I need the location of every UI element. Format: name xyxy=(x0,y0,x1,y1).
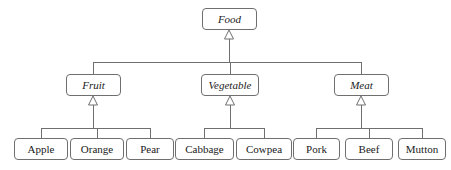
generalization-arrowhead-vegetable xyxy=(226,96,235,105)
class-node-label: Mutton xyxy=(406,144,438,155)
class-node-label: Fruit xyxy=(82,80,105,91)
class-node-fruit[interactable]: Fruit xyxy=(66,74,121,96)
class-node-orange[interactable]: Orange xyxy=(70,138,124,160)
class-node-label: Orange xyxy=(81,144,113,155)
class-node-label: Cabbage xyxy=(185,144,223,155)
class-node-label: Pear xyxy=(140,144,160,155)
generalization-arrowhead-food xyxy=(225,30,234,39)
class-node-label: Meat xyxy=(350,80,373,91)
class-node-food[interactable]: Food xyxy=(202,8,257,30)
class-node-label: Apple xyxy=(28,144,55,155)
class-node-apple[interactable]: Apple xyxy=(14,138,68,160)
class-node-meat[interactable]: Meat xyxy=(334,74,389,96)
class-node-mutton[interactable]: Mutton xyxy=(398,138,446,160)
uml-class-hierarchy-diagram: Food Fruit Vegetable Meat Apple Orange P… xyxy=(0,0,451,170)
class-node-label: Beef xyxy=(359,144,380,155)
class-node-vegetable[interactable]: Vegetable xyxy=(201,74,259,96)
class-node-beef[interactable]: Beef xyxy=(345,138,393,160)
generalization-arrowhead-fruit xyxy=(89,96,98,105)
class-node-label: Food xyxy=(218,14,241,25)
generalization-arrowhead-meat xyxy=(357,96,366,105)
class-node-label: Pork xyxy=(306,144,327,155)
class-node-label: Cowpea xyxy=(246,144,282,155)
class-node-pork[interactable]: Pork xyxy=(293,138,340,160)
class-node-cowpea[interactable]: Cowpea xyxy=(236,138,292,160)
class-node-label: Vegetable xyxy=(209,80,252,91)
class-node-cabbage[interactable]: Cabbage xyxy=(175,138,234,160)
class-node-pear[interactable]: Pear xyxy=(126,138,174,160)
